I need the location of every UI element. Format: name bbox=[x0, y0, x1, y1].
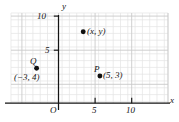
point-P-coord-label: (5, 3) bbox=[103, 71, 123, 80]
data-point-generic bbox=[81, 29, 86, 34]
origin-label: O bbox=[50, 106, 57, 115]
y-axis-label: y bbox=[62, 2, 66, 11]
coordinate-plane-figure: y x O 10 5 5 10 (x, y) Q (−3, 4) P (5, 3… bbox=[0, 0, 179, 122]
point-P-name-label: P bbox=[94, 65, 100, 74]
x-axis-label: x bbox=[170, 96, 174, 105]
point-Q-coord-label: (−3, 4) bbox=[14, 73, 40, 82]
data-point-Q bbox=[34, 66, 39, 71]
point-Q-name-label: Q bbox=[30, 57, 37, 66]
point-generic-coord-label: (x, y) bbox=[87, 27, 105, 36]
data-point-P bbox=[97, 74, 102, 79]
y-tick-label-10: 10 bbox=[37, 12, 46, 21]
y-tick-label-5: 5 bbox=[45, 46, 50, 55]
x-tick-label-5: 5 bbox=[92, 106, 97, 115]
x-tick-label-10: 10 bbox=[126, 106, 135, 115]
plot-svg bbox=[0, 0, 179, 122]
